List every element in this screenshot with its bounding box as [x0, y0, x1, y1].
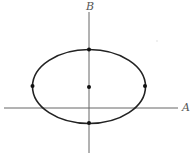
point-center — [87, 85, 91, 89]
faint-speck — [156, 40, 158, 42]
axis-label-a: A — [182, 102, 190, 113]
point-left — [31, 84, 35, 88]
point-right — [143, 84, 147, 88]
axis-label-b: B — [86, 1, 94, 12]
ellipse-diagram — [0, 0, 196, 153]
point-bottom — [87, 121, 91, 125]
point-top — [87, 48, 91, 52]
